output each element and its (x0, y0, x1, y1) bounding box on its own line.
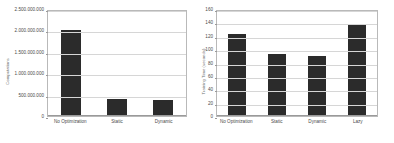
bar (107, 99, 127, 116)
y-tick-label: 1.000.000.000 (15, 72, 44, 77)
gridline (217, 24, 377, 25)
x-tick-label: No Optimization (47, 120, 94, 125)
bar-slot (48, 11, 94, 116)
x-tick-label: Static (257, 120, 298, 125)
bar-slot (337, 11, 377, 116)
gridline (48, 32, 186, 33)
y-tick-label: 80 (208, 61, 213, 66)
y-tick-label: 40 (208, 88, 213, 93)
gridline (48, 75, 186, 76)
y-axis-tick-labels-left: 0500.000.0001.000.000.0001.500.000.0002.… (1, 0, 44, 143)
gridline (217, 38, 377, 39)
y-tick-mark (46, 54, 49, 55)
x-tick-label: No Optimization (216, 120, 257, 125)
x-tick-label: Dynamic (140, 120, 187, 125)
y-tick-label: 100 (205, 48, 213, 53)
gridline (217, 105, 377, 106)
y-tick-mark (215, 105, 218, 106)
y-tick-label: 140 (205, 21, 213, 26)
y-tick-label: 1.500.000.000 (15, 51, 44, 56)
y-tick-mark (46, 75, 49, 76)
bar-series-right (217, 11, 377, 116)
bar-slot (94, 11, 140, 116)
gridline (217, 11, 377, 12)
y-tick-label: 2.500.000.000 (15, 8, 44, 13)
bar (61, 30, 81, 116)
y-tick-mark (46, 97, 49, 98)
bar-slot (297, 11, 337, 116)
x-tick-label: Dynamic (297, 120, 338, 125)
plot-area-left (47, 10, 187, 117)
y-axis-tick-labels-right: 020406080100120140160 (199, 0, 213, 143)
x-axis-line-right (217, 115, 377, 116)
y-tick-mark (215, 91, 218, 92)
bar-slot (217, 11, 257, 116)
plot-area-right (216, 10, 378, 117)
x-axis-tick-labels-right: No OptimizationStaticDynamicLazy (216, 120, 378, 125)
y-tick-mark (215, 11, 218, 12)
y-tick-label: 2.000.000.000 (15, 29, 44, 34)
y-tick-mark (215, 118, 218, 119)
gridline (48, 97, 186, 98)
x-axis-tick-labels-left: No OptimizationStaticDynamic (47, 120, 187, 125)
y-tick-label: 120 (205, 34, 213, 39)
y-tick-label: 60 (208, 75, 213, 80)
gridline (217, 78, 377, 79)
bar-slot (140, 11, 186, 116)
y-tick-mark (215, 65, 218, 66)
gridline (217, 51, 377, 52)
y-tick-label: 500.000.000 (18, 93, 44, 98)
y-tick-mark (46, 32, 49, 33)
gridline (217, 65, 377, 66)
y-tick-mark (215, 51, 218, 52)
y-tick-mark (215, 24, 218, 25)
gridline (48, 54, 186, 55)
y-tick-mark (46, 11, 49, 12)
y-tick-label: 0 (41, 115, 44, 120)
y-tick-label: 20 (208, 101, 213, 106)
bar-series-left (48, 11, 186, 116)
bar (153, 100, 173, 116)
y-tick-label: 0 (210, 115, 213, 120)
y-tick-mark (46, 118, 49, 119)
y-tick-mark (215, 38, 218, 39)
dual-bar-chart-figure: Computations 0500.000.0001.000.000.0001.… (0, 0, 394, 143)
chart-panel-computations: Computations 0500.000.0001.000.000.0001.… (0, 0, 197, 143)
x-tick-label: Lazy (338, 120, 379, 125)
y-tick-label: 160 (205, 8, 213, 13)
x-tick-label: Static (94, 120, 141, 125)
bar-slot (257, 11, 297, 116)
x-axis-line-left (48, 115, 186, 116)
chart-panel-training-time: Training Time (seconds) 0204060801001201… (197, 0, 394, 143)
gridline (48, 11, 186, 12)
y-tick-mark (215, 78, 218, 79)
gridline (217, 91, 377, 92)
